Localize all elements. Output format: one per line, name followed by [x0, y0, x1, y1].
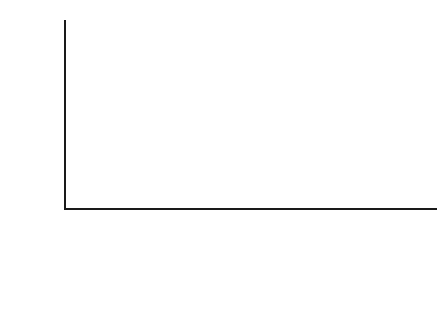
x-axis-line	[64, 208, 437, 210]
y-axis-tick-labels	[0, 0, 54, 309]
plot-area	[64, 21, 437, 208]
bar-chart	[0, 0, 447, 309]
